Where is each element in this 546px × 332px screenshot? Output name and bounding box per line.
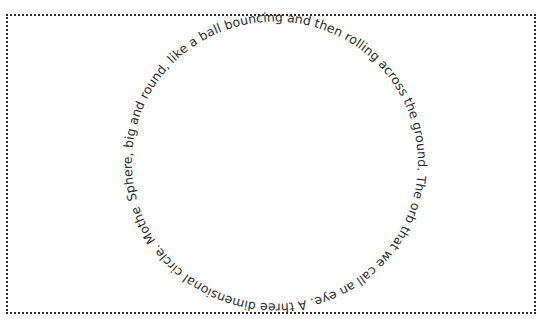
circular-text: Sphere, big and round, like a ball bounc… [0, 0, 430, 316]
circular-text-path: Sphere, big and round, like a ball bounc… [0, 0, 430, 316]
circular-text-graphic: Sphere, big and round, like a ball bounc… [0, 0, 546, 332]
